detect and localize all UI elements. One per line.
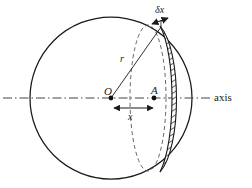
label-point-a: A — [151, 85, 158, 96]
delta-x-arrow — [152, 18, 168, 24]
label-center-o: O — [104, 86, 112, 97]
sphere-shell-diagram: O A r x δx axis — [0, 0, 252, 188]
label-axis: axis — [214, 92, 232, 103]
label-radius-r: r — [120, 54, 124, 64]
label-distance-x: x — [128, 112, 132, 122]
label-thickness-delta-x: δx — [155, 5, 164, 15]
point-a-marker — [152, 96, 157, 101]
